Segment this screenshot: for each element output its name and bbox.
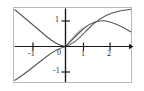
y-tick-label-1: 1 [55, 16, 59, 24]
x-tick-label-2: 2 [107, 50, 111, 58]
x-tick-label-1: 1 [81, 50, 85, 58]
figure-container: -1 1 2 1 -1 0 [0, 0, 144, 91]
y-tick-label-neg1: -1 [53, 67, 60, 75]
x-axis-arrow-icon [129, 44, 134, 49]
origin-label: 0 [57, 49, 61, 57]
plot-svg [0, 0, 144, 91]
x-tick-label-neg1: -1 [28, 50, 35, 58]
decreasing-curve-right [66, 21, 132, 47]
increasing-curve [15, 9, 132, 80]
